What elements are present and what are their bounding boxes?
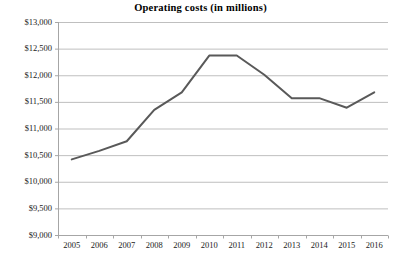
plot-area <box>58 22 388 235</box>
x-axis-tick-label: 2013 <box>283 240 300 250</box>
x-axis-tick-label: 2015 <box>338 240 355 250</box>
y-axis-tick-label: $10,500 <box>0 151 52 160</box>
operating-costs-line-chart: Operating costs (in millions) $9,000$9,5… <box>0 0 401 266</box>
x-axis-tick-label: 2010 <box>201 240 218 250</box>
data-series-line <box>58 22 388 235</box>
y-axis-tick-labels: $9,000$9,500$10,000$10,500$11,000$11,500… <box>0 0 52 266</box>
y-axis-tick-label: $10,000 <box>0 177 52 186</box>
x-axis-tick-label: 2005 <box>63 240 80 250</box>
y-axis-tick-label: $13,000 <box>0 18 52 27</box>
x-axis-tick-label: 2008 <box>146 240 163 250</box>
y-axis-tick-label: $9,500 <box>0 204 52 213</box>
y-axis-tick-label: $11,000 <box>0 124 52 133</box>
y-axis-tick-label: $12,000 <box>0 71 52 80</box>
x-axis-tick-label: 2016 <box>366 240 383 250</box>
chart-title: Operating costs (in millions) <box>0 2 401 13</box>
y-axis-tick-label: $11,500 <box>0 97 52 106</box>
y-axis-tick-label: $9,000 <box>0 231 52 240</box>
x-axis-tick-labels: 2005200620072008200920102011201220132014… <box>58 240 388 254</box>
x-axis-tick-label: 2012 <box>256 240 273 250</box>
x-axis-tick-label: 2009 <box>173 240 190 250</box>
x-axis-tick-label: 2011 <box>228 240 245 250</box>
x-axis-tick-label: 2007 <box>118 240 135 250</box>
y-axis-tick-label: $12,500 <box>0 44 52 53</box>
x-axis-tick-label: 2006 <box>91 240 108 250</box>
x-axis-tick-label: 2014 <box>311 240 328 250</box>
series-operating-costs <box>72 56 375 160</box>
